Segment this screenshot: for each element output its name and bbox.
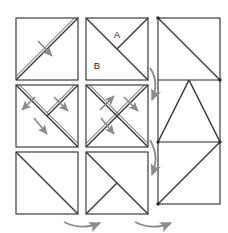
folding-diagram: A B bbox=[0, 0, 228, 233]
result-vertex-lower-left bbox=[156, 140, 159, 143]
flow-arrow-right-left bbox=[64, 222, 100, 227]
result-vertex-lower-right bbox=[218, 140, 221, 143]
square-r2c2 bbox=[86, 85, 148, 147]
flow-arrow-down-upper bbox=[150, 68, 156, 100]
result-vertex-top-left bbox=[156, 16, 159, 19]
square-r1c1 bbox=[16, 18, 78, 80]
square-r3c1 bbox=[16, 152, 78, 214]
result-rectangle-outline bbox=[158, 18, 220, 204]
flow-arrow-down-lower bbox=[150, 140, 156, 175]
region-label-b: B bbox=[94, 60, 100, 71]
region-label-a: A bbox=[114, 29, 121, 40]
result-vertex-upper bbox=[218, 78, 221, 81]
result-rectangle bbox=[156, 16, 221, 205]
figure-canvas: A B bbox=[0, 0, 228, 233]
result-vertex-bottom-left bbox=[156, 202, 159, 205]
square-r1c2: A B bbox=[86, 18, 148, 80]
square-r2c1 bbox=[16, 85, 78, 147]
square-r3c2 bbox=[86, 152, 148, 214]
flow-arrow-right-right bbox=[135, 222, 171, 227]
